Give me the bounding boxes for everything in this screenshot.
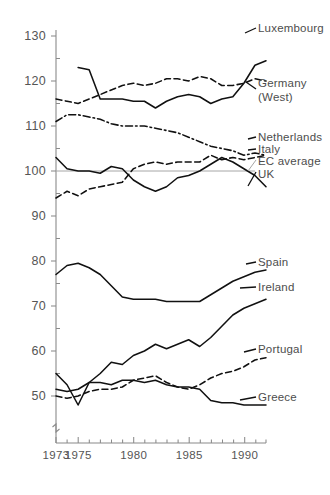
series-label-ec-average: EC average [258,155,321,167]
y-tick-70: 70 [31,299,46,313]
y-tick-120: 120 [24,74,46,88]
series-line-italy [56,155,266,198]
series-label-portugal: Portugal [258,343,302,355]
x-tick-1990: 1990 [231,449,258,461]
series-label-luxembourg: Luxembourg [258,22,324,34]
y-tick-110: 110 [25,119,46,133]
y-axis-break-icon [53,424,60,432]
y-tick-130: 130 [24,29,46,43]
series-label-netherlands: Netherlands [258,131,322,143]
y-tick-80: 80 [31,254,46,268]
series-label-ireland: Ireland [258,281,295,293]
series-line-ireland [56,299,266,405]
line-chart: 130 120 110 100 90 80 70 60 50 [0,0,330,495]
y-tick-90: 90 [31,209,46,223]
series-label-germany: Germany [258,77,307,89]
x-tick-1980: 1980 [120,449,147,461]
series-label-uk: UK [258,168,275,180]
series-line-netherlands [56,115,266,156]
series-label-greece: Greece [258,391,297,403]
y-tick-100: 100 [24,164,46,178]
series-line-portugal [56,358,266,399]
x-tick-1975: 1975 [65,449,92,461]
y-tick-50: 50 [31,389,46,403]
series-label-spain: Spain [258,256,288,268]
series-layer [56,61,266,405]
y-tick-60: 60 [31,344,46,358]
chart-container: 130 120 110 100 90 80 70 60 50 [0,0,330,495]
series-label-italy: Italy [258,143,280,155]
series-line-spain [56,263,266,301]
x-tick-marks [56,437,266,443]
series-line-germany-west [56,77,266,104]
x-tick-1985: 1985 [176,449,203,461]
series-label-germany-west: (West) [258,91,293,103]
